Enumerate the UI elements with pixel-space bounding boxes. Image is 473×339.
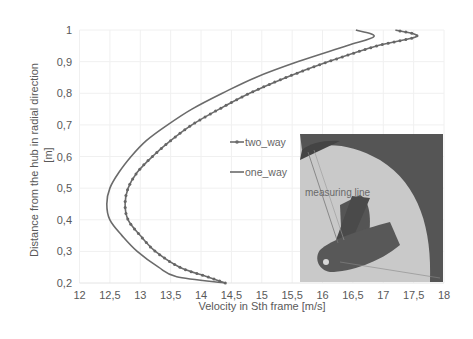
y-tick-label: 0,9 (57, 56, 72, 68)
x-tick-label: 18 (438, 289, 450, 301)
x-tick-label: 13 (134, 289, 146, 301)
x-tick-label: 13,5 (160, 289, 181, 301)
x-tick-label: 16,5 (342, 289, 363, 301)
y-tick-label: 0,6 (57, 151, 72, 163)
y-axis-ticks: 0,20,30,40,50,60,70,80,91 (57, 24, 72, 289)
y-tick-label: 0,8 (57, 87, 72, 99)
x-tick-label: 17,5 (403, 289, 424, 301)
y-axis-title-unit: [m] (42, 147, 54, 162)
legend-label-two-way: two_way (245, 136, 287, 148)
y-tick-label: 0,7 (57, 119, 72, 131)
y-axis-title: Distance from the hub in radial directio… (28, 63, 40, 257)
x-tick-label: 12 (73, 289, 85, 301)
legend-item-one-way: one_way (230, 166, 288, 178)
legend-item-two-way: two_way (230, 136, 287, 148)
x-axis-title: Velocity in Sth frame [m/s] (198, 300, 325, 312)
rotor-inset-image: measuring line (300, 134, 443, 282)
x-tick-label: 17 (377, 289, 389, 301)
y-tick-label: 1 (66, 24, 72, 36)
legend-label-one-way: one_way (245, 166, 288, 178)
y-tick-label: 0,4 (57, 214, 72, 226)
measuring-line-label: measuring line (305, 187, 370, 198)
y-tick-label: 0,3 (57, 245, 72, 257)
x-tick-label: 12,5 (99, 289, 120, 301)
velocity-profile-chart: 1212,51313,51414,51515,51616,51717,518 0… (0, 0, 473, 339)
y-tick-label: 0,2 (57, 277, 72, 289)
y-tick-label: 0,5 (57, 182, 72, 194)
dot-marker-icon (235, 140, 239, 144)
